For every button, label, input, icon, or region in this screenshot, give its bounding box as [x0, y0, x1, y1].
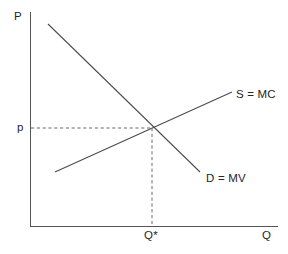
- quantity-axis-label: Q: [262, 229, 271, 241]
- supply-curve: [55, 92, 232, 172]
- supply-demand-figure: P p S = MC D = MV Q* Q: [0, 0, 288, 254]
- chart-canvas: [0, 0, 288, 254]
- supply-curve-label: S = MC: [236, 88, 276, 100]
- price-axis-label: P: [14, 10, 22, 22]
- equilibrium-price-label: p: [17, 121, 24, 133]
- demand-curve-label: D = MV: [206, 172, 246, 184]
- equilibrium-quantity-label: Q*: [144, 229, 158, 241]
- demand-curve: [48, 24, 200, 172]
